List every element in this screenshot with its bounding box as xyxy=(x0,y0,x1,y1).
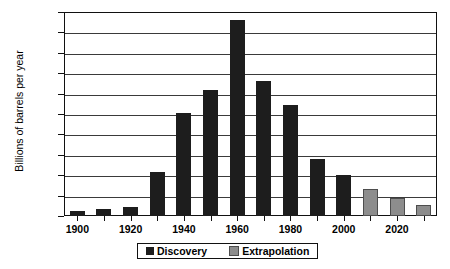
x-tick-1990 xyxy=(317,216,318,221)
bar-discovery-1990 xyxy=(310,159,325,216)
x-tick-1940 xyxy=(184,216,185,221)
x-tick-1950 xyxy=(211,216,212,221)
x-tick-1910 xyxy=(104,216,105,221)
bar-discovery-1940 xyxy=(176,113,191,216)
x-label-2020: 2020 xyxy=(377,223,417,235)
bar-discovery-1910 xyxy=(96,209,111,216)
bar-extrapolation-2020 xyxy=(390,198,405,216)
x-label-1900: 1900 xyxy=(57,223,97,235)
x-tick-2000 xyxy=(344,216,345,221)
x-label-1940: 1940 xyxy=(164,223,204,235)
x-label-1920: 1920 xyxy=(111,223,151,235)
legend-item-extrapolation: Extrapolation xyxy=(229,246,309,257)
bar-discovery-1950 xyxy=(203,90,218,216)
x-tick-1960 xyxy=(237,216,238,221)
chart-legend: Discovery Extrapolation xyxy=(137,243,318,259)
bar-discovery-2000 xyxy=(336,175,351,216)
x-tick-1980 xyxy=(290,216,291,221)
x-label-1960: 1960 xyxy=(217,223,257,235)
x-tick-1930 xyxy=(157,216,158,221)
y-axis-title: Billions of barrels per year xyxy=(13,6,25,216)
y-tick-0 xyxy=(58,216,64,217)
legend-label-extrapolation: Extrapolation xyxy=(242,246,309,257)
x-tick-2030 xyxy=(424,216,425,221)
x-tick-2020 xyxy=(397,216,398,221)
x-tick-2010 xyxy=(370,216,371,221)
bar-extrapolation-2030 xyxy=(416,205,431,216)
legend-item-discovery: Discovery xyxy=(146,246,207,257)
bar-extrapolation-2010 xyxy=(363,189,378,216)
bars-layer xyxy=(64,12,437,216)
extrapolation-swatch-icon xyxy=(229,246,239,256)
x-label-2000: 2000 xyxy=(324,223,364,235)
bar-discovery-1960 xyxy=(230,20,245,216)
bar-discovery-1930 xyxy=(150,172,165,216)
discovery-swatch-icon xyxy=(146,247,154,255)
bar-discovery-1920 xyxy=(123,207,138,216)
bar-discovery-1970 xyxy=(256,81,271,216)
x-tick-1920 xyxy=(131,216,132,221)
bar-discovery-1980 xyxy=(283,105,298,216)
legend-label-discovery: Discovery xyxy=(157,246,207,257)
oil-discovery-bar-chart: Billions of barrels per year 05010015020… xyxy=(0,0,450,269)
x-label-1980: 1980 xyxy=(270,223,310,235)
x-tick-1900 xyxy=(77,216,78,221)
x-tick-1970 xyxy=(264,216,265,221)
